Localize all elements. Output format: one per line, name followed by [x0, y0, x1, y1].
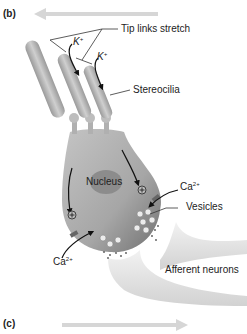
- ca-ion-label-right: Ca2+: [180, 181, 200, 192]
- ca-ion-label-left: Ca2+: [53, 256, 73, 267]
- vesicles-label: Vesicles: [186, 201, 223, 212]
- panel-label-b: (b): [3, 8, 16, 19]
- nucleus-label: Nucleus: [86, 176, 122, 187]
- direction-arrow-left: [34, 8, 158, 20]
- k-ion-label-1: K+: [73, 36, 83, 47]
- panel-label-c: (c): [3, 318, 15, 329]
- stereocilia-label: Stereocilia: [133, 84, 180, 95]
- afferent-neuron-upper: [160, 222, 247, 270]
- k-ion-label-2: K+: [97, 51, 107, 62]
- hair-cell-diagram: [0, 0, 247, 334]
- afferent-neurons-label: Afferent neurons: [165, 264, 239, 275]
- stereocilia-leader: [110, 90, 130, 95]
- tip-links-label: Tip links stretch: [121, 23, 190, 34]
- direction-arrow-right: [62, 319, 188, 331]
